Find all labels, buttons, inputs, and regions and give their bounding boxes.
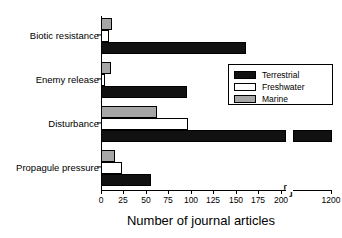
x-tick-200 <box>281 190 282 194</box>
bar-marine-disturbance <box>101 106 157 118</box>
x-tick-label-75: 75 <box>163 195 172 205</box>
x-tick-label-25: 25 <box>118 195 127 205</box>
legend-item-terrestrial: Terrestrial <box>234 69 327 80</box>
x-tick-label-0: 0 <box>99 195 104 205</box>
x-tick-label-100: 100 <box>184 195 198 205</box>
x-axis-title: Number of journal articles <box>0 213 342 228</box>
x-tick-0 <box>101 190 102 194</box>
legend-swatch-freshwater-icon <box>234 83 256 91</box>
bar-terrestrial-disturbance-overflow <box>293 130 332 142</box>
x-tick-125 <box>213 190 214 194</box>
legend-label-freshwater: Freshwater <box>262 82 305 92</box>
bar-marine-propagule-pressure <box>101 150 115 162</box>
x-tick-label-150: 150 <box>229 195 243 205</box>
x-tick-25 <box>123 190 124 194</box>
x-axis-line-segment-2 <box>293 190 332 191</box>
bar-marine-biotic-resistance <box>101 18 112 30</box>
x-tick-175 <box>258 190 259 194</box>
bar-marine-enemy-release <box>101 62 111 74</box>
legend-label-terrestrial: Terrestrial <box>262 70 299 80</box>
legend-item-marine: Marine <box>234 93 327 104</box>
legend-swatch-terrestrial-icon <box>234 71 256 79</box>
bar-terrestrial-disturbance <box>101 130 286 142</box>
bar-freshwater-biotic-resistance <box>101 30 109 42</box>
legend-swatch-marine-icon <box>234 95 256 103</box>
x-tick-150 <box>236 190 237 194</box>
category-label-propagule-pressure: Propagule pressure <box>16 162 99 173</box>
legend-item-freshwater: Freshwater <box>234 81 327 92</box>
category-label-biotic-resistance: Biotic resistance <box>30 30 99 41</box>
bar-freshwater-enemy-release <box>101 74 105 86</box>
x-tick-label-175: 175 <box>251 195 265 205</box>
legend-label-marine: Marine <box>262 94 288 104</box>
x-tick-75 <box>168 190 169 194</box>
x-tick-50 <box>146 190 147 194</box>
category-label-disturbance: Disturbance <box>48 118 99 129</box>
bar-terrestrial-biotic-resistance <box>101 42 246 54</box>
x-tick-label-1200: 1200 <box>322 195 341 205</box>
bar-freshwater-disturbance <box>101 118 188 130</box>
chart-legend: Terrestrial Freshwater Marine <box>228 64 333 105</box>
x-tick-1200 <box>331 190 332 194</box>
bar-chart: Biotic resistance Enemy release Disturba… <box>0 0 342 238</box>
bar-terrestrial-enemy-release <box>101 86 187 98</box>
x-tick-label-200: 200 <box>274 195 288 205</box>
bar-freshwater-propagule-pressure <box>101 162 122 174</box>
x-tick-label-125: 125 <box>206 195 220 205</box>
category-label-enemy-release: Enemy release <box>36 74 99 85</box>
bar-terrestrial-propagule-pressure <box>101 174 151 186</box>
x-tick-100 <box>191 190 192 194</box>
x-tick-label-50: 50 <box>141 195 150 205</box>
